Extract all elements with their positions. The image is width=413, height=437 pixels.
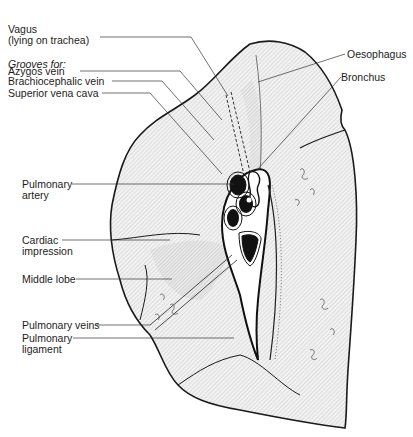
label-vagus: Vagus (lying on trachea): [8, 24, 89, 46]
label-pulmonary-veins: Pulmonary veins: [22, 320, 100, 331]
label-superior-vena-cava: Superior vena cava: [8, 88, 98, 99]
label-cardiac-line2: impression: [22, 246, 73, 257]
label-oesophagus: Oesophagus: [347, 49, 407, 60]
label-pulmonary-ligament: Pulmonary ligament: [22, 333, 72, 355]
label-pulmonary-artery: Pulmonary artery: [22, 179, 72, 201]
label-vagus-line2: (lying on trachea): [8, 35, 89, 46]
label-pulmonary-ligament-line2: ligament: [22, 344, 72, 355]
label-brachiocephalic-vein: Brachiocephalic vein: [8, 76, 104, 87]
lung-diagram: Vagus (lying on trachea) Grooves for: Az…: [0, 0, 413, 437]
pulmonary-vein-section: [227, 209, 239, 227]
label-middle-lobe: Middle lobe: [22, 274, 76, 285]
label-bronchus: Bronchus: [341, 72, 385, 83]
label-pulmonary-artery-line2: artery: [22, 190, 72, 201]
label-cardiac-impression: Cardiac impression: [22, 235, 73, 257]
